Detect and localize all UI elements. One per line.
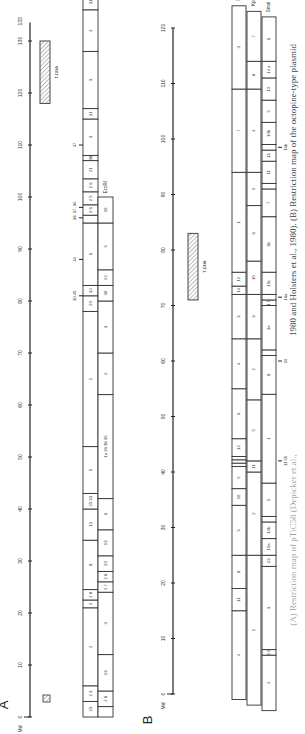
fragment-label: 23	[88, 706, 93, 711]
tick-label: 100	[160, 135, 166, 144]
tick-label: 10	[17, 662, 23, 668]
tick-label: 0	[17, 715, 23, 718]
tick-label: 40	[17, 506, 23, 512]
fragment-HindIII	[83, 215, 98, 223]
unit-label: Md	[160, 702, 166, 709]
tick-label: 70	[160, 303, 166, 309]
tick-label: 80	[160, 247, 166, 253]
fragment-SmaI	[262, 145, 276, 151]
tick-label: 80	[17, 298, 23, 304]
axis-end-label: 133	[17, 17, 23, 26]
panel-label-A: A	[0, 700, 11, 709]
fragment-label: 2 6	[88, 182, 93, 188]
tick-label: 90	[17, 246, 23, 252]
tick-label: 120	[160, 24, 166, 33]
fragment-EcoRI	[98, 707, 113, 717]
tdna-region	[188, 233, 198, 300]
fragment-SmaI	[262, 516, 276, 522]
tick-label: 10	[160, 636, 166, 642]
fragment-label: 10	[103, 207, 108, 212]
fragment-label: 14 a	[266, 65, 271, 74]
unit-label: Md	[17, 725, 23, 732]
fragment-label: 11	[251, 464, 256, 469]
fragment-HpaI	[232, 456, 246, 459]
tick-label: 110	[160, 79, 166, 87]
fragment-label: 2 8	[103, 573, 108, 579]
fragment-label: 10	[236, 494, 241, 499]
fragment-label: 30	[103, 290, 108, 295]
fragment-label: 2 3	[88, 690, 93, 696]
enzyme-label-KpnI: KpnI	[251, 0, 256, 6]
figure-caption-lower: (A) Restriction map of pTiC58 (Depicker …	[288, 454, 298, 625]
tick-label: 90	[160, 192, 166, 198]
annotation-label: 34	[72, 256, 77, 261]
fragment-label: 34	[88, 288, 93, 293]
fragment-label: 14	[236, 287, 241, 292]
fragment-label: 11	[266, 169, 271, 174]
fragment-label: 10b	[266, 129, 271, 137]
fragment-label: 12	[236, 276, 241, 281]
tick-label: 20	[17, 610, 23, 616]
fragment-label: 2 5	[88, 195, 93, 201]
tick-label: 50	[160, 414, 166, 420]
fragment-label: 2 6	[88, 206, 93, 212]
figure-caption: 1980 and Holsters et al., 1980). (B) Res…	[288, 43, 298, 336]
annotation-label: 30 40	[72, 290, 77, 301]
fragment-label: 13	[266, 153, 271, 158]
tick-label: 60	[17, 402, 23, 408]
enzyme-label-EcoRI: EcoRI	[103, 181, 108, 193]
fragment-label: 14b	[266, 526, 271, 534]
fragment-label: 20	[103, 561, 108, 566]
fragment-label: 21	[88, 167, 93, 172]
fragment-label: 11	[236, 597, 241, 602]
fragment-SmaI	[262, 294, 276, 300]
tdna-region	[40, 41, 50, 103]
tdna-label: T-DNA	[202, 260, 207, 273]
fragment-label: 13	[103, 540, 108, 545]
fragment-label: 12	[236, 445, 241, 450]
restriction-map-figure: 0102030405060708090100110120130133MdT-DN…	[0, 0, 305, 734]
fragment-label: 2 8	[88, 591, 93, 597]
legend-hatch-swatch	[43, 695, 50, 702]
tick-label: 0	[160, 692, 166, 695]
tick-label: 110	[17, 141, 23, 149]
annotation-label: 37	[72, 142, 77, 147]
fragment-SmaI	[262, 350, 276, 356]
tick-label: 30	[160, 525, 166, 531]
tick-label: 30	[17, 558, 23, 564]
fragment-label: 31	[88, 111, 93, 116]
fragment-label: 3b	[266, 241, 271, 246]
fragment-SmaI	[262, 183, 276, 189]
annotation-label: 38	[72, 215, 77, 220]
fragment-label: 13	[88, 522, 93, 527]
tick-label: 50	[17, 454, 23, 460]
fragment-label: 2 7	[103, 583, 108, 589]
fragment-label: 13	[103, 670, 108, 675]
fragment-HpaI	[232, 463, 246, 466]
enzyme-label-HpaI: HpaI	[236, 0, 241, 1]
fragment-label: 13	[266, 558, 271, 563]
tick-label: 120	[17, 89, 23, 98]
panel-label-B: B	[140, 716, 155, 725]
fragment-label: 22	[103, 275, 108, 280]
fragment-HpaI	[232, 460, 246, 463]
annotation-label: 19	[283, 358, 288, 363]
fragment-label: 31	[88, 0, 93, 4]
fragment-label: 1a 28 38 35	[103, 435, 108, 458]
enzyme-label-SmaI: SmaI	[266, 2, 271, 13]
fragment-label: 10a	[266, 543, 271, 551]
fragment-label: 2 8	[103, 695, 108, 701]
fragment-label: 10	[251, 275, 256, 280]
tdna-label: T-DNA	[54, 66, 59, 79]
tick-label: 40	[160, 469, 166, 475]
annotation-label: 37, 39	[72, 201, 77, 213]
tick-label: 20	[160, 580, 166, 586]
fragment-label: 12	[266, 86, 271, 91]
fragment-label: 25 33	[88, 495, 93, 506]
fragment-label: 20	[88, 301, 93, 306]
tick-label: 70	[17, 350, 23, 356]
tick-label: 100	[17, 193, 23, 202]
tick-label: 130	[17, 37, 23, 46]
tick-label: 60	[160, 358, 166, 364]
fragment-label: 10c	[266, 280, 271, 287]
